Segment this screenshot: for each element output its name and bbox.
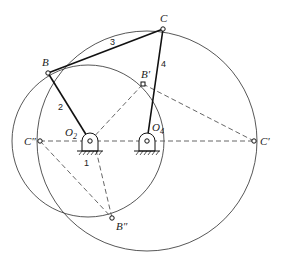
label-link-3: 3 xyxy=(110,37,115,47)
label-link-4: 4 xyxy=(161,59,166,69)
label-link-1: 1 xyxy=(84,158,89,168)
joints xyxy=(38,27,256,220)
label-c: C xyxy=(160,12,168,24)
ground-support-o2 xyxy=(77,133,103,155)
label-b-dprime: B″ xyxy=(116,220,128,232)
label-c-dprime: C″ xyxy=(24,135,36,147)
ground-support-o4 xyxy=(134,133,160,155)
linkage-diagram: B C B′ C′ C″ B″ O2 O4 1 2 3 4 xyxy=(0,0,283,264)
label-c-prime: C′ xyxy=(260,135,270,147)
label-b: B xyxy=(42,56,49,68)
label-o2: O2 xyxy=(65,126,77,141)
label-b-prime: B′ xyxy=(141,68,151,80)
label-link-2: 2 xyxy=(58,102,63,112)
diagram-canvas: B C B′ C′ C″ B″ O2 O4 1 2 3 4 xyxy=(0,0,283,264)
